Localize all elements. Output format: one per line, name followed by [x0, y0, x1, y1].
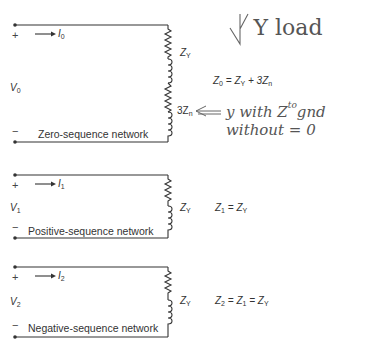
negative-plus-terminal: + — [12, 272, 18, 283]
zero-minus-terminal: − — [12, 126, 18, 137]
zero-impedance-3zn-label: 3Zn — [177, 106, 193, 117]
zero-current-label: I0 — [58, 29, 65, 40]
positive-impedance-label: ZY — [180, 203, 191, 214]
handwritten-title: Y Y load — [252, 17, 323, 39]
positive-minus-terminal: − — [12, 222, 18, 233]
negative-voltage-label: V2 — [10, 297, 21, 308]
zero-voltage-label: V0 — [10, 83, 21, 94]
handwritten-note-line1: y with Ztognd — [226, 101, 326, 120]
negative-minus-terminal: − — [12, 320, 18, 331]
zero-plus-terminal: + — [12, 30, 18, 41]
positive-sequence-network-label: Positive-sequence network — [26, 226, 155, 237]
zero-sequence-equation: Z0 = ZY + 3Zn — [213, 76, 272, 87]
handwritten-note-line2: without = 0 — [226, 123, 316, 138]
zero-sequence-network-label: Zero-sequence network — [36, 129, 150, 140]
negative-impedance-label: ZY — [180, 296, 191, 307]
negative-sequence-network-label: Negative-sequence network — [26, 323, 160, 334]
negative-current-label: I2 — [58, 271, 65, 282]
zero-impedance-zy-label: ZY — [180, 48, 191, 59]
positive-current-label: I1 — [58, 179, 65, 190]
positive-sequence-equation: Z1 = ZY — [215, 203, 247, 214]
positive-voltage-label: V1 — [10, 203, 21, 214]
positive-plus-terminal: + — [12, 180, 18, 191]
negative-sequence-equation: Z2 = Z1 = ZY — [215, 296, 269, 307]
